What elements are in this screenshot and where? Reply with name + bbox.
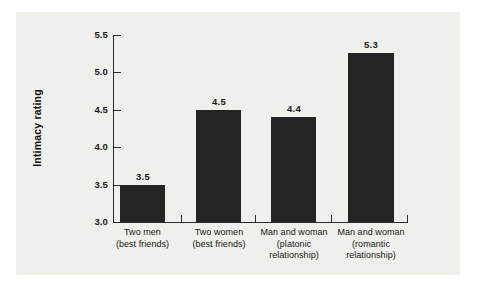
x-axis-separator-tick-1 — [181, 215, 182, 222]
bar-value-man-woman-platonic: 4.4 — [268, 103, 320, 114]
y-axis-tick-4-0 — [114, 147, 121, 148]
x-axis-line — [113, 222, 408, 223]
bar-chart: Intimacy rating 3.0 3.5 4.0 4.5 5.0 5.5 — [0, 0, 477, 290]
x-axis-separator-tick-4 — [407, 215, 408, 222]
category-line: relationship) — [255, 250, 333, 262]
x-axis-category-label-two-men: Two men (best friends) — [104, 227, 181, 250]
bar-man-woman-platonic[interactable] — [271, 117, 316, 222]
y-axis-tick-text: 3.5 — [82, 179, 108, 190]
y-axis-tick-5-0 — [114, 72, 121, 73]
category-line: (best friends) — [180, 239, 258, 251]
y-axis-tick-label-5-0: 5.0 — [82, 66, 108, 78]
y-axis-tick-text: 3.0 — [82, 216, 108, 227]
figure: Intimacy rating 3.0 3.5 4.0 4.5 5.0 5.5 — [0, 0, 477, 290]
category-line: (platonic — [255, 239, 333, 251]
category-line: Two men — [104, 227, 181, 239]
y-axis-tick-4-5 — [114, 110, 121, 111]
bar-two-women[interactable] — [196, 110, 241, 222]
y-axis-tick-label-5-5: 5.5 — [82, 29, 108, 41]
bar-value-two-women: 4.5 — [193, 96, 245, 107]
x-axis-category-label-two-women: Two women (best friends) — [180, 227, 258, 250]
category-line: Two women — [180, 227, 258, 239]
y-axis-label: Intimacy rating — [31, 58, 43, 198]
bar-value-two-men: 3.5 — [117, 171, 169, 182]
y-axis-tick-label-4-5: 4.5 — [82, 104, 108, 116]
y-axis-tick-text: 5.5 — [82, 29, 108, 40]
bar-two-men[interactable] — [120, 185, 165, 222]
y-axis-tick-label-3-5: 3.5 — [82, 179, 108, 191]
y-axis-tick-text: 4.0 — [82, 141, 108, 152]
category-line: (romantic — [332, 239, 410, 251]
x-axis-category-label-man-woman-romantic: Man and woman (romantic relationship) — [332, 227, 410, 262]
y-axis-line — [113, 35, 114, 223]
x-axis-category-label-man-woman-platonic: Man and woman (platonic relationship) — [255, 227, 333, 262]
y-axis-tick-text: 5.0 — [82, 66, 108, 77]
category-line: (best friends) — [104, 239, 181, 251]
x-axis-separator-tick-3 — [331, 215, 332, 222]
category-line: relationship) — [332, 250, 410, 262]
category-line: Man and woman — [255, 227, 333, 239]
bar-man-woman-romantic[interactable] — [348, 53, 394, 222]
y-axis-tick-3-0 — [114, 222, 121, 223]
y-axis-tick-label-4-0: 4.0 — [82, 141, 108, 153]
y-axis-tick-5-5 — [114, 35, 121, 36]
bar-value-man-woman-romantic: 5.3 — [345, 39, 397, 50]
x-axis-separator-tick-2 — [255, 215, 256, 222]
y-axis-tick-text: 4.5 — [82, 104, 108, 115]
category-line: Man and woman — [332, 227, 410, 239]
